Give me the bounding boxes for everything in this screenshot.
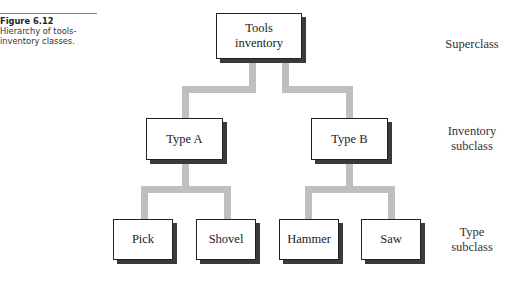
connector-typea-vertical bbox=[182, 86, 189, 118]
node-type-b: Type B bbox=[311, 118, 388, 160]
node-label: Pick bbox=[132, 232, 154, 247]
level-label-superclass: Superclass bbox=[432, 37, 512, 52]
connector-hammer-vertical bbox=[305, 186, 312, 219]
figure-caption: Figure 6.12 Hierarchy of tools- inventor… bbox=[0, 16, 110, 46]
level-label-type-subclass: Type subclass bbox=[432, 225, 512, 255]
caption-text-line2: inventory classes. bbox=[0, 36, 110, 46]
node-label-line2: inventory bbox=[235, 36, 283, 51]
figure-label: Figure 6.12 bbox=[0, 16, 110, 26]
connector-saw-vertical bbox=[388, 186, 395, 219]
level-label-line2: subclass bbox=[432, 240, 512, 255]
node-label-line1: Tools bbox=[245, 21, 273, 36]
connector-typeb-horizontal bbox=[305, 186, 395, 193]
node-tools-inventory: Tools inventory bbox=[216, 13, 302, 59]
node-label: Hammer bbox=[287, 232, 331, 247]
node-hammer: Hammer bbox=[279, 219, 339, 260]
node-label: Shovel bbox=[209, 232, 244, 247]
level-label-line2: subclass bbox=[432, 139, 512, 154]
connector-root-left-horizontal bbox=[182, 86, 256, 93]
node-type-a: Type A bbox=[146, 118, 223, 160]
level-label-line1: Type bbox=[432, 225, 512, 240]
caption-text-line1: Hierarchy of tools- bbox=[0, 26, 110, 36]
node-label: Saw bbox=[380, 232, 402, 247]
node-label: Type B bbox=[331, 132, 367, 147]
node-saw: Saw bbox=[361, 219, 421, 260]
level-label-line1: Superclass bbox=[432, 37, 512, 52]
level-label-inventory-subclass: Inventory subclass bbox=[432, 124, 512, 154]
node-pick: Pick bbox=[113, 219, 173, 260]
connector-typeb-vertical bbox=[346, 86, 353, 118]
connector-root-right-horizontal bbox=[282, 86, 353, 93]
level-label-line1: Inventory bbox=[432, 124, 512, 139]
caption-rule bbox=[0, 13, 97, 14]
connector-typea-horizontal bbox=[141, 186, 231, 193]
node-shovel: Shovel bbox=[196, 219, 256, 260]
connector-shovel-vertical bbox=[224, 186, 231, 219]
node-label: Type A bbox=[166, 132, 202, 147]
connector-pick-vertical bbox=[141, 186, 148, 219]
